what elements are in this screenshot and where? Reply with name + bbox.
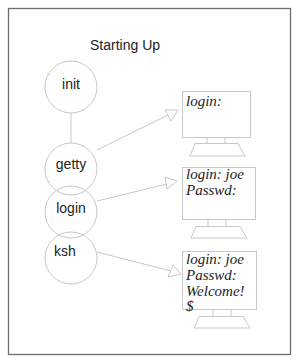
terminal-line: Passwd: [185, 267, 237, 283]
terminal-line: login: joe [186, 251, 244, 267]
starting-up-diagram: Starting Up init getty login ksh login: [0, 0, 299, 363]
diagram-title: Starting Up [90, 37, 160, 53]
process-label: login [56, 200, 86, 216]
terminal-line: Welcome! [186, 283, 245, 299]
process-label: ksh [54, 243, 76, 259]
terminal-line: login: joe [186, 166, 244, 182]
terminal-line: login: [186, 93, 222, 109]
diagram-frame [9, 9, 291, 355]
process-label: getty [56, 156, 86, 172]
terminal-line: $ [186, 298, 194, 314]
process-label: init [62, 76, 80, 92]
terminal-line: Passwd: [185, 182, 237, 198]
